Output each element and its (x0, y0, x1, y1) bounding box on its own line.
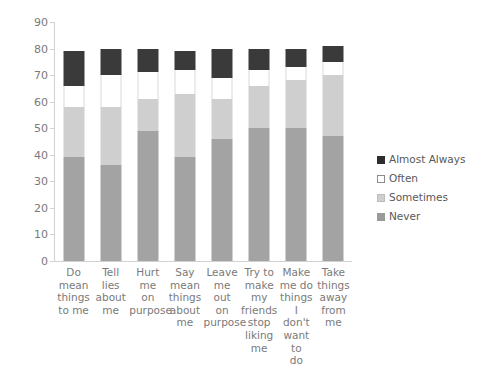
x-axis-label-line: Say (166, 266, 203, 279)
bar-segment-almost-always[interactable] (137, 49, 158, 73)
bar-column[interactable] (92, 22, 129, 261)
legend-label: Never (389, 211, 420, 222)
bar-segment-often[interactable] (323, 62, 344, 75)
bar-stack[interactable] (174, 51, 195, 261)
x-axis-label-line: do (278, 354, 315, 367)
bar-column[interactable] (278, 22, 315, 261)
bar-stack[interactable] (100, 49, 121, 261)
x-axis-label-line: Make (278, 266, 315, 279)
bar-column[interactable] (55, 22, 92, 261)
legend-item[interactable]: Almost Always (377, 150, 485, 169)
y-axis-tick-mark (50, 261, 54, 262)
bar-segment-sometimes[interactable] (323, 75, 344, 136)
y-axis-tick-mark (50, 49, 54, 50)
bar-stack[interactable] (137, 49, 158, 261)
x-axis-line (54, 261, 352, 262)
bar-column[interactable] (241, 22, 278, 261)
bar-segment-often[interactable] (174, 70, 195, 94)
legend-item[interactable]: Never (377, 207, 485, 226)
bar-segment-sometimes[interactable] (100, 107, 121, 165)
y-axis-tick-mark (50, 128, 54, 129)
y-axis-tick-label: 30 (34, 176, 48, 187)
bar-stack[interactable] (212, 49, 233, 261)
bar-segment-often[interactable] (212, 78, 233, 99)
bar-column[interactable] (129, 22, 166, 261)
x-axis-label-line: stop (241, 316, 278, 329)
bar-column[interactable] (204, 22, 241, 261)
x-axis-label-line: me (241, 342, 278, 355)
x-axis-label: Takethingsawayfrom me (315, 266, 352, 329)
bar-segment-never[interactable] (63, 157, 84, 261)
x-axis-label-line: don't (278, 316, 315, 329)
bar-stack[interactable] (286, 49, 307, 261)
y-axis-tick-mark (50, 234, 54, 235)
x-axis-label-line: away (315, 291, 352, 304)
x-axis-label: Domeanthingsto me (55, 266, 92, 316)
x-axis-label-line: on (204, 304, 241, 317)
y-axis-tick-mark (50, 22, 54, 23)
x-axis-label-line: things (166, 291, 203, 304)
y-axis-tick-label: 80 (34, 43, 48, 54)
bar-segment-almost-always[interactable] (323, 46, 344, 62)
x-axis-label: Leaveme outonpurpose (204, 266, 241, 329)
legend-swatch-icon (377, 156, 385, 164)
bar-segment-often[interactable] (137, 72, 158, 99)
y-axis-tick-mark (50, 155, 54, 156)
bar-segment-almost-always[interactable] (249, 49, 270, 70)
bar-stack[interactable] (63, 51, 84, 261)
bar-segment-often[interactable] (249, 70, 270, 86)
legend-label: Almost Always (389, 154, 465, 165)
bar-segment-never[interactable] (100, 165, 121, 261)
legend-item[interactable]: Often (377, 169, 485, 188)
legend-label: Often (389, 173, 418, 184)
bar-segment-never[interactable] (212, 139, 233, 261)
y-axis-tick-label: 0 (41, 256, 48, 267)
bar-stack[interactable] (249, 49, 270, 261)
bar-segment-almost-always[interactable] (63, 51, 84, 86)
y-axis-tick-mark (50, 181, 54, 182)
plot-area: 9080706050403020100 (55, 22, 352, 261)
bar-segment-never[interactable] (249, 128, 270, 261)
bar-segment-often[interactable] (63, 86, 84, 107)
x-axis-label-line: my (241, 291, 278, 304)
bar-segment-almost-always[interactable] (212, 49, 233, 78)
x-axis-label-line: Leave (204, 266, 241, 279)
bars-layer (55, 22, 352, 261)
x-axis-label: Try tomakemyfriendsstoplikingme (241, 266, 278, 354)
bar-segment-often[interactable] (100, 75, 121, 107)
bar-stack[interactable] (323, 46, 344, 261)
x-axis-label-line: things (55, 291, 92, 304)
bar-segment-almost-always[interactable] (174, 51, 195, 70)
x-axis-label: Saymeanthingsaboutme (166, 266, 203, 329)
x-axis-label-line: about (166, 304, 203, 317)
legend-swatch-icon (377, 213, 385, 221)
bar-segment-sometimes[interactable] (212, 99, 233, 139)
x-axis-label-line: want to (278, 329, 315, 354)
bar-segment-never[interactable] (174, 157, 195, 261)
bar-segment-sometimes[interactable] (63, 107, 84, 157)
legend-swatch-icon (377, 175, 385, 183)
bar-segment-never[interactable] (137, 131, 158, 261)
x-axis-label-line: about (92, 291, 129, 304)
x-axis-label-line: purpose (129, 304, 166, 317)
legend-item[interactable]: Sometimes (377, 188, 485, 207)
bar-segment-sometimes[interactable] (286, 80, 307, 128)
bar-segment-almost-always[interactable] (100, 49, 121, 76)
bar-column[interactable] (315, 22, 352, 261)
x-axis-label: Hurt meonpurpose (129, 266, 166, 316)
bar-segment-sometimes[interactable] (174, 94, 195, 158)
x-axis-label-line: mean (166, 279, 203, 292)
bar-column[interactable] (166, 22, 203, 261)
x-axis-label-line: Hurt me (129, 266, 166, 291)
bar-segment-never[interactable] (286, 128, 307, 261)
y-axis-tick-label: 60 (34, 96, 48, 107)
bar-segment-sometimes[interactable] (137, 99, 158, 131)
bar-segment-almost-always[interactable] (286, 49, 307, 68)
x-axis-label-line: me (92, 304, 129, 317)
bar-segment-never[interactable] (323, 136, 344, 261)
x-axis-label-line: things (315, 279, 352, 292)
bar-segment-sometimes[interactable] (249, 86, 270, 128)
x-axis-label-line: purpose (204, 316, 241, 329)
y-axis-tick-label: 90 (34, 17, 48, 28)
bar-segment-often[interactable] (286, 67, 307, 80)
